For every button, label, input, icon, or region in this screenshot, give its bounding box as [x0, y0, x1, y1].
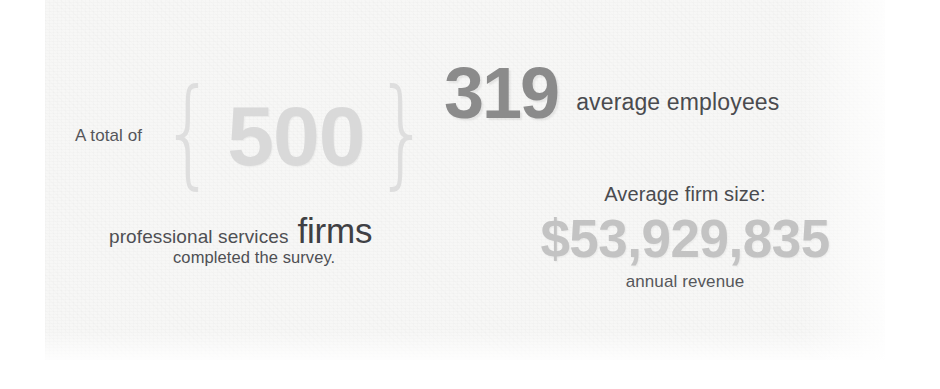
revenue-value: $53,929,835	[490, 211, 880, 266]
firms-descriptor-row: professional services firms	[109, 211, 372, 251]
infographic-page: A total of { 500 } professional services…	[0, 0, 940, 389]
firms-caption: completed the survey.	[173, 248, 335, 267]
close-curly-brace-icon: }	[376, 73, 430, 191]
revenue-stat-block: Average firm size: $53,929,835 annual re…	[490, 183, 880, 292]
firms-prefix-label: A total of	[75, 126, 142, 148]
revenue-heading: Average firm size:	[490, 183, 880, 206]
employees-count-value: 319	[444, 57, 558, 129]
employees-stat-block: 319 average employees	[444, 57, 779, 129]
firms-stat-block: A total of { 500 } professional services…	[75, 78, 485, 288]
revenue-caption: annual revenue	[490, 272, 880, 292]
firms-descriptor-small: professional services	[109, 226, 289, 248]
firms-count-value: 500	[227, 94, 364, 178]
employees-label: average employees	[576, 89, 779, 116]
brace-group: { 500 }	[151, 77, 440, 195]
firms-headline-row: A total of { 500 }	[75, 78, 440, 196]
open-curly-brace-icon: {	[162, 73, 216, 191]
firms-descriptor-large: firms	[298, 211, 373, 251]
